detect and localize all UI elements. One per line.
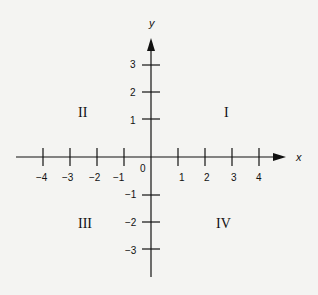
x-tick-label-neg2: −2 bbox=[89, 172, 101, 183]
quadrant-label-I: I bbox=[224, 105, 229, 120]
y-tick-label-2: 2 bbox=[130, 87, 136, 98]
y-axis-arrow-icon bbox=[147, 38, 155, 51]
coordinate-plane-svg: −4 −3 −2 −1 1 2 3 4 0 3 2 1 −1 −2 −3 x y… bbox=[0, 0, 318, 295]
y-tick-label-neg3: −3 bbox=[125, 245, 137, 256]
origin-label: 0 bbox=[140, 163, 146, 174]
y-axis-label: y bbox=[148, 17, 156, 29]
x-tick-label-2: 2 bbox=[204, 172, 210, 183]
x-tick-label-4: 4 bbox=[256, 172, 262, 183]
x-tick-label-neg4: −4 bbox=[36, 172, 48, 183]
x-tick-label-neg1: −1 bbox=[113, 172, 125, 183]
y-tick-label-3: 3 bbox=[130, 59, 136, 70]
x-axis-label: x bbox=[295, 151, 302, 163]
x-axis-arrow-icon bbox=[273, 153, 286, 161]
x-tick-label-3: 3 bbox=[231, 172, 237, 183]
quadrant-label-II: II bbox=[78, 105, 88, 120]
quadrant-label-III: III bbox=[78, 216, 92, 231]
x-tick-label-1: 1 bbox=[179, 172, 185, 183]
y-tick-label-neg1: −1 bbox=[125, 189, 137, 200]
x-tick-label-neg3: −3 bbox=[62, 172, 74, 183]
coordinate-plane-figure: −4 −3 −2 −1 1 2 3 4 0 3 2 1 −1 −2 −3 x y… bbox=[0, 0, 318, 295]
y-tick-label-1: 1 bbox=[130, 115, 136, 126]
quadrant-label-IV: IV bbox=[216, 216, 231, 231]
y-tick-label-neg2: −2 bbox=[125, 217, 137, 228]
